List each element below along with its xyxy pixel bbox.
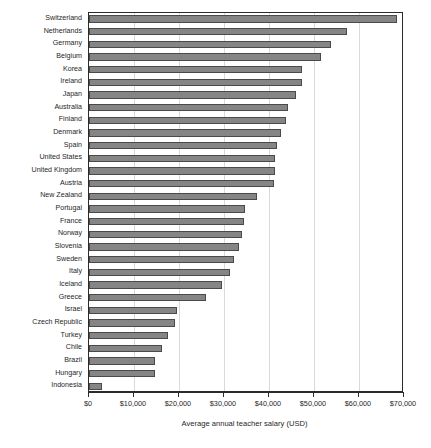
- category-label: Germany: [53, 37, 82, 49]
- category-label: Netherlands: [44, 25, 82, 37]
- category-label: Spain: [64, 139, 82, 151]
- category-label: Austria: [60, 177, 82, 189]
- bar: [89, 91, 296, 98]
- category-label: Australia: [54, 101, 82, 113]
- bar: [89, 218, 244, 225]
- bar-row: [89, 368, 402, 380]
- x-axis-tick: [133, 392, 134, 397]
- bar: [89, 79, 302, 86]
- bar-row: [89, 190, 402, 202]
- bar-row: [89, 203, 402, 215]
- bar: [89, 269, 230, 276]
- category-label: Italy: [69, 265, 82, 277]
- bar-row: [89, 178, 402, 190]
- x-axis-tick-label: $40,000: [255, 399, 281, 408]
- bar-row: [89, 228, 402, 240]
- x-axis-tick: [88, 392, 89, 397]
- bar-row: [89, 102, 402, 114]
- x-axis-tick-label: $30,000: [210, 399, 236, 408]
- bar: [89, 41, 331, 48]
- bar-row: [89, 140, 402, 152]
- bar: [89, 193, 257, 200]
- bar: [89, 104, 288, 111]
- bar: [89, 256, 234, 263]
- plot-area: [88, 12, 403, 392]
- category-label: United States: [39, 151, 82, 163]
- bar-row: [89, 266, 402, 278]
- bar-row: [89, 355, 402, 367]
- bar: [89, 383, 102, 390]
- category-label: Indonesia: [51, 379, 82, 391]
- bar: [89, 243, 239, 250]
- category-label: Iceland: [59, 278, 82, 290]
- bar: [89, 180, 274, 187]
- bar: [89, 281, 222, 288]
- bar: [89, 129, 281, 136]
- x-axis-tick-label: $20,000: [165, 399, 191, 408]
- category-label: Greece: [59, 291, 82, 303]
- bar: [89, 155, 275, 162]
- bar-row: [89, 342, 402, 354]
- bar-row: [89, 241, 402, 253]
- teacher-salary-bar-chart: SwitzerlandNetherlandsGermanyBelgiumKore…: [0, 0, 431, 448]
- bar-row: [89, 127, 402, 139]
- category-axis-labels: SwitzerlandNetherlandsGermanyBelgiumKore…: [0, 12, 85, 392]
- category-label: Chile: [66, 341, 82, 353]
- bar-row: [89, 279, 402, 291]
- category-label: Ireland: [60, 75, 82, 87]
- bar-row: [89, 89, 402, 101]
- bar-row: [89, 38, 402, 50]
- bar: [89, 15, 397, 22]
- x-axis-tick: [223, 392, 224, 397]
- bar-row: [89, 13, 402, 25]
- category-label: Japan: [63, 88, 82, 100]
- x-axis-line: [88, 392, 404, 393]
- bar-row: [89, 64, 402, 76]
- bar-row: [89, 216, 402, 228]
- bar-row: [89, 304, 402, 316]
- bar: [89, 205, 245, 212]
- category-label: Belgium: [56, 50, 82, 62]
- category-label: Switzerland: [45, 12, 82, 24]
- bar: [89, 231, 242, 238]
- bar-row: [89, 76, 402, 88]
- bar: [89, 294, 206, 301]
- category-label: Norway: [58, 227, 82, 239]
- category-label: Sweden: [56, 253, 82, 265]
- bar-row: [89, 317, 402, 329]
- bar: [89, 167, 275, 174]
- bar-row: [89, 114, 402, 126]
- category-label: France: [60, 215, 82, 227]
- x-axis-tick-label: $50,000: [300, 399, 326, 408]
- bar-row: [89, 165, 402, 177]
- category-label: Finland: [59, 113, 82, 125]
- x-axis-title: Average annual teacher salary (USD): [0, 419, 431, 428]
- bar: [89, 28, 347, 35]
- x-axis-tick-label: $70,000: [390, 399, 416, 408]
- bar: [89, 319, 175, 326]
- x-axis-tick-label: $60,000: [345, 399, 371, 408]
- x-axis-tick-label: $0: [84, 399, 92, 408]
- x-axis-tick: [358, 392, 359, 397]
- bar: [89, 357, 155, 364]
- bar-row: [89, 51, 402, 63]
- bar-row: [89, 292, 402, 304]
- category-label: Hungary: [55, 367, 82, 379]
- bar: [89, 307, 177, 314]
- bar-row: [89, 380, 402, 392]
- category-label: Slovenia: [55, 240, 82, 252]
- category-label: United Kingdom: [32, 164, 82, 176]
- category-label: New Zealand: [40, 189, 82, 201]
- category-label: Denmark: [53, 126, 82, 138]
- bar-rows: [89, 13, 402, 391]
- bar: [89, 53, 321, 60]
- bar-row: [89, 26, 402, 38]
- bar: [89, 370, 155, 377]
- x-axis-tick: [403, 392, 404, 397]
- bar: [89, 332, 168, 339]
- x-axis-tick: [178, 392, 179, 397]
- x-axis-tick: [268, 392, 269, 397]
- bar: [89, 345, 162, 352]
- category-label: Brazil: [64, 354, 82, 366]
- category-label: Korea: [63, 63, 82, 75]
